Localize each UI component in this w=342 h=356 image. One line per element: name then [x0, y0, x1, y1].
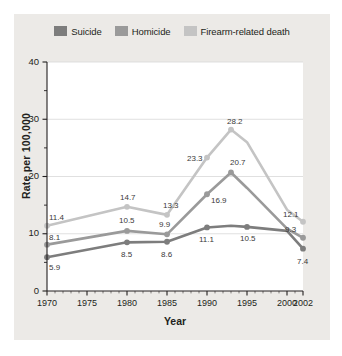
data-point-label: 9.3 [285, 225, 296, 234]
x-tick-label: 1985 [150, 298, 184, 308]
x-tick-label: 2002 [286, 298, 320, 308]
data-point-label: 20.7 [230, 158, 246, 167]
data-point-label: 11.4 [49, 213, 64, 222]
x-tick-label: 1975 [70, 298, 104, 308]
y-axis-title: Rate per 100,000 [20, 86, 32, 226]
y-tick-label: 40 [17, 56, 39, 67]
data-point-label: 12.1 [283, 210, 299, 219]
data-point-label: 7.4 [297, 257, 308, 266]
data-point-label: 28.2 [227, 117, 243, 126]
data-point-label: 5.9 [49, 263, 60, 272]
data-point-label: 8.6 [161, 250, 172, 259]
data-point-label: 16.9 [211, 196, 227, 205]
series-layer [44, 127, 306, 260]
data-point-label: 8.5 [121, 250, 132, 259]
data-point-label: 10.5 [240, 234, 256, 243]
axis-layer [43, 62, 304, 296]
x-tick-label: 1995 [230, 298, 264, 308]
data-point-label: 13.3 [163, 201, 179, 210]
data-point-label: 9.9 [159, 220, 170, 229]
data-point-label: 10.5 [119, 216, 135, 225]
chart-figure: Suicide Homicide Firearm-related death 0… [0, 0, 342, 356]
x-tick-label: 1990 [190, 298, 224, 308]
data-point-label: 8.1 [49, 233, 60, 242]
x-tick-label: 1980 [110, 298, 144, 308]
y-tick-label: 10 [17, 227, 39, 238]
x-tick-label: 1970 [30, 298, 64, 308]
data-point-label: 23.3 [187, 154, 203, 163]
x-axis-title: Year [47, 315, 303, 327]
y-tick-label: 0 [17, 285, 39, 296]
data-point-label: 11.1 [199, 235, 214, 244]
data-point-label: 14.7 [120, 193, 136, 202]
